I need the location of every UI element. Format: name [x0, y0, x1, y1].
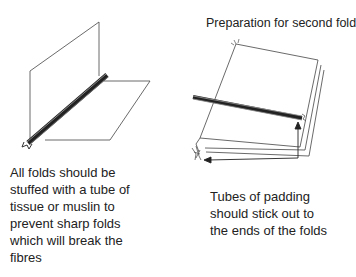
right-caption: Tubes of padding should stick out to the…: [210, 188, 330, 239]
second-fold-illustration: [192, 39, 324, 163]
padding-tube-second-icon: [193, 96, 306, 121]
lower-layer-1: [205, 65, 321, 150]
padding-tube-icon: [22, 74, 108, 149]
figure-title: Preparation for second fold: [206, 16, 356, 30]
top-sheet: [200, 44, 318, 147]
folded-lip: [196, 138, 200, 152]
tissue-end-bottom-icon: [192, 146, 201, 160]
vertical-panel: [30, 22, 99, 142]
left-caption: All folds should be stuffed with a tube …: [10, 164, 150, 266]
first-fold-illustration: [22, 22, 150, 149]
horizontal-panel: [45, 81, 150, 140]
